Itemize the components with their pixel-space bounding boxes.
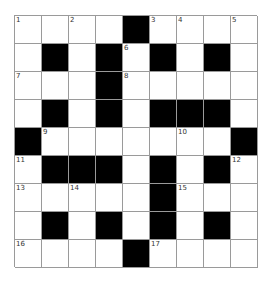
crossword-cell[interactable] xyxy=(96,240,123,268)
crossword-cell[interactable] xyxy=(96,128,123,156)
crossword-cell[interactable] xyxy=(177,240,204,268)
black-square xyxy=(150,156,177,184)
black-square xyxy=(231,128,258,156)
black-square xyxy=(204,100,231,128)
clue-number: 14 xyxy=(70,184,79,193)
crossword-cell[interactable] xyxy=(204,16,231,44)
crossword-cell[interactable] xyxy=(123,156,150,184)
black-square xyxy=(123,16,150,44)
crossword-cell[interactable] xyxy=(69,128,96,156)
black-square xyxy=(69,156,96,184)
clue-number: 10 xyxy=(178,128,187,137)
crossword-cell[interactable] xyxy=(123,212,150,240)
crossword-cell[interactable]: 11 xyxy=(15,156,42,184)
black-square xyxy=(204,44,231,72)
black-square xyxy=(177,100,204,128)
black-square xyxy=(42,212,69,240)
crossword-cell[interactable]: 6 xyxy=(123,44,150,72)
crossword-cell[interactable]: 1 xyxy=(15,16,42,44)
crossword-cell[interactable] xyxy=(177,44,204,72)
crossword-cell[interactable]: 14 xyxy=(69,184,96,212)
black-square xyxy=(42,156,69,184)
black-square xyxy=(150,212,177,240)
clue-number: 4 xyxy=(178,16,182,25)
crossword-cell[interactable] xyxy=(204,184,231,212)
crossword-cell[interactable]: 2 xyxy=(69,16,96,44)
crossword-cell[interactable] xyxy=(150,128,177,156)
crossword-cell[interactable] xyxy=(15,212,42,240)
crossword-cell[interactable] xyxy=(42,184,69,212)
clue-number: 7 xyxy=(16,72,20,81)
black-square xyxy=(96,100,123,128)
crossword-cell[interactable] xyxy=(42,72,69,100)
crossword-cell[interactable] xyxy=(123,184,150,212)
crossword-cell[interactable]: 8 xyxy=(123,72,150,100)
black-square xyxy=(42,44,69,72)
crossword-cell[interactable] xyxy=(231,184,258,212)
crossword-cell[interactable] xyxy=(204,240,231,268)
crossword-cell[interactable] xyxy=(123,100,150,128)
crossword-cell[interactable] xyxy=(15,100,42,128)
crossword-cell[interactable]: 10 xyxy=(177,128,204,156)
black-square xyxy=(123,240,150,268)
clue-number: 6 xyxy=(124,44,128,53)
crossword-cell[interactable] xyxy=(204,128,231,156)
crossword-cell[interactable] xyxy=(177,156,204,184)
black-square xyxy=(204,212,231,240)
crossword-cell[interactable]: 17 xyxy=(150,240,177,268)
clue-number: 2 xyxy=(70,16,74,25)
crossword-cell[interactable]: 5 xyxy=(231,16,258,44)
crossword-cell[interactable] xyxy=(42,240,69,268)
crossword-cell[interactable]: 13 xyxy=(15,184,42,212)
black-square xyxy=(42,100,69,128)
black-square xyxy=(96,44,123,72)
crossword-cell[interactable] xyxy=(69,212,96,240)
black-square xyxy=(150,100,177,128)
crossword-cell[interactable] xyxy=(96,184,123,212)
crossword-cell[interactable] xyxy=(231,240,258,268)
crossword-cell[interactable] xyxy=(96,16,123,44)
crossword-cell[interactable] xyxy=(69,44,96,72)
crossword-grid: 1234567891011121314151617 xyxy=(14,15,257,267)
crossword-cell[interactable] xyxy=(69,100,96,128)
black-square xyxy=(150,44,177,72)
crossword-cell[interactable]: 12 xyxy=(231,156,258,184)
clue-number: 9 xyxy=(43,128,47,137)
crossword-cell[interactable] xyxy=(69,240,96,268)
clue-number: 5 xyxy=(232,16,236,25)
clue-number: 8 xyxy=(124,72,128,81)
crossword-cell[interactable] xyxy=(204,72,231,100)
crossword-cell[interactable] xyxy=(177,72,204,100)
clue-number: 12 xyxy=(232,156,241,165)
crossword-cell[interactable] xyxy=(123,128,150,156)
crossword-cell[interactable] xyxy=(69,72,96,100)
crossword-cell[interactable] xyxy=(231,44,258,72)
crossword-cell[interactable] xyxy=(15,44,42,72)
crossword-cell[interactable] xyxy=(177,212,204,240)
crossword-cell[interactable] xyxy=(231,100,258,128)
crossword-cell[interactable] xyxy=(42,16,69,44)
black-square xyxy=(150,184,177,212)
clue-number: 1 xyxy=(16,16,20,25)
black-square xyxy=(96,72,123,100)
crossword-cell[interactable]: 7 xyxy=(15,72,42,100)
crossword-cell[interactable] xyxy=(150,72,177,100)
crossword-cell[interactable]: 4 xyxy=(177,16,204,44)
black-square xyxy=(204,156,231,184)
crossword-cell[interactable]: 15 xyxy=(177,184,204,212)
clue-number: 15 xyxy=(178,184,187,193)
clue-number: 13 xyxy=(16,184,25,193)
black-square xyxy=(96,156,123,184)
crossword-cell[interactable] xyxy=(231,212,258,240)
clue-number: 16 xyxy=(16,240,25,249)
clue-number: 3 xyxy=(151,16,155,25)
clue-number: 11 xyxy=(16,156,25,165)
crossword-cell[interactable]: 3 xyxy=(150,16,177,44)
crossword-cell[interactable] xyxy=(231,72,258,100)
black-square xyxy=(96,212,123,240)
crossword-cell[interactable]: 9 xyxy=(42,128,69,156)
crossword-cell[interactable]: 16 xyxy=(15,240,42,268)
clue-number: 17 xyxy=(151,240,160,249)
black-square xyxy=(15,128,42,156)
